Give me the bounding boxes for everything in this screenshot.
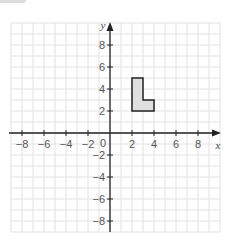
x-tick-label: 8 <box>195 138 201 150</box>
x-tick-label: 4 <box>151 138 157 150</box>
y-tick-label: 6 <box>99 61 105 73</box>
y-tick-label: 4 <box>99 83 105 95</box>
x-axis-label: x <box>215 139 221 151</box>
x-tick-label: −6 <box>38 138 51 150</box>
y-axis-label: y <box>100 19 106 31</box>
l-shape <box>132 78 154 111</box>
y-tick-label: −8 <box>92 215 105 227</box>
x-tick-label: −4 <box>60 138 73 150</box>
y-tick-label: −6 <box>92 193 105 205</box>
x-tick-label: 2 <box>129 138 135 150</box>
y-tick-label: 8 <box>99 39 105 51</box>
x-tick-label: −8 <box>16 138 29 150</box>
y-tick-label: −4 <box>92 171 105 183</box>
x-tick-label: 6 <box>173 138 179 150</box>
y-tick-label: −2 <box>92 149 105 161</box>
coordinate-grid: −8−6−4−224688642−2−4−6−80xy <box>0 0 232 250</box>
origin-label: 0 <box>100 137 106 149</box>
y-tick-label: 2 <box>99 105 105 117</box>
